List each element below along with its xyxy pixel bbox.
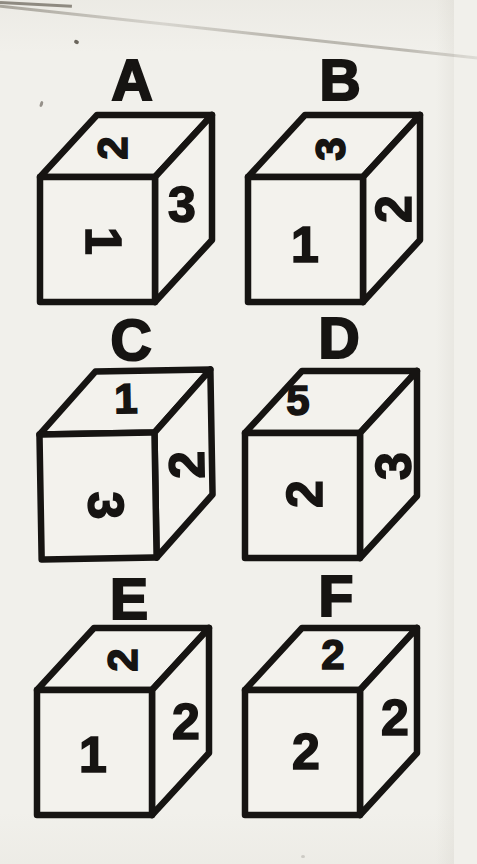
cube-a-right-number: 3 [168, 180, 196, 230]
cube-a: 2 1 3 [35, 110, 221, 306]
cube-c-top-number-pos: 1 [114, 378, 138, 420]
cube-e-front-number: 1 [79, 730, 107, 780]
cube-c-letter: C [110, 312, 151, 369]
cube-d-right-number-pos: 3 [380, 441, 408, 491]
cube-f-front-number-pos: 2 [292, 727, 320, 777]
ink-speck [301, 855, 305, 858]
cube-a-top-number-pos: 2 [101, 127, 124, 169]
cube-d-right-number: 3 [369, 452, 419, 480]
cube-b-right-number-pos: 2 [380, 184, 408, 234]
cube-f-letter: F [319, 568, 354, 625]
cube-b: 3 1 2 [243, 110, 429, 306]
cube-a-front-number: 1 [78, 227, 128, 255]
cube-b-top-number: 3 [310, 137, 352, 160]
cube-c-front-number-pos: 3 [91, 480, 120, 530]
scan-smudge-line [0, 4, 477, 59]
cube-b-front-number-pos: 1 [291, 220, 319, 270]
cube-d-top-number: 5 [286, 380, 309, 422]
cube-a-right-number-pos: 3 [168, 180, 196, 230]
cube-d: 5 2 3 [240, 366, 426, 562]
cube-e-front-number-pos: 1 [79, 730, 107, 780]
cube-f: 2 2 2 [240, 623, 426, 819]
cube-d-letter: D [318, 310, 359, 367]
cube-f-right-number: 2 [381, 693, 409, 743]
cube-a-top-number: 2 [92, 136, 134, 159]
cube-b-top-number-pos: 3 [319, 128, 342, 170]
cube-f-right-number-pos: 2 [381, 693, 409, 743]
cube-b-letter: B [319, 52, 360, 109]
cube-e-top-number-pos: 2 [111, 639, 134, 681]
cube-d-front-number-pos: 2 [291, 469, 319, 519]
cube-f-top-number: 2 [321, 634, 344, 676]
cube-c-front-number: 3 [80, 491, 130, 520]
ink-speck [73, 39, 79, 45]
cube-b-right-number: 2 [369, 195, 419, 223]
cube-d-front-number: 2 [280, 480, 330, 508]
cube-c-right-number: 2 [162, 451, 212, 480]
cube-e-right-number: 2 [172, 697, 200, 747]
cube-f-top-number-pos: 2 [321, 634, 344, 676]
cube-c-top-number: 1 [114, 378, 138, 420]
cube-b-front-number: 1 [291, 220, 319, 270]
cube-e-letter: E [110, 571, 148, 628]
cube-a-front-number-pos: 1 [89, 216, 117, 266]
cube-a-letter: A [111, 52, 152, 109]
cube-e: 2 1 2 [32, 623, 218, 819]
cube-e-right-number-pos: 2 [172, 697, 200, 747]
cube-d-top-number-pos: 5 [286, 380, 309, 422]
ink-speck [39, 101, 44, 108]
cube-f-front-number: 2 [292, 727, 320, 777]
cube-c: 1 3 2 [33, 364, 222, 563]
cube-c-right-number-pos: 2 [173, 440, 202, 490]
cube-e-top-number: 2 [102, 648, 144, 671]
